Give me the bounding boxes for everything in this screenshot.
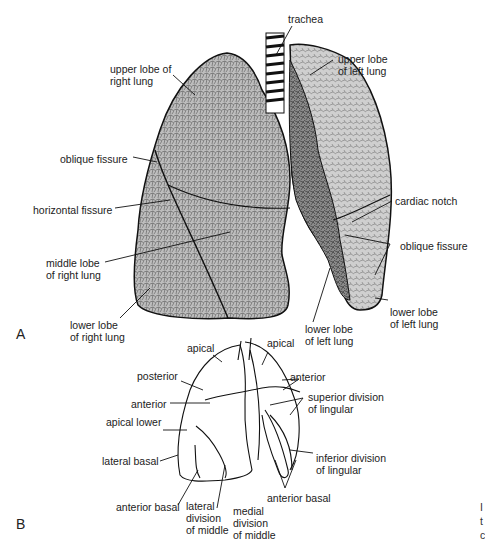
panel-letter-b: B [16, 516, 25, 532]
label-apical-left: apical [267, 337, 294, 349]
label-trachea: trachea [288, 13, 323, 25]
label-lower-lobe-right-line1: lower lobe [70, 319, 118, 331]
label-lateral-basal: lateral basal [102, 455, 159, 467]
caption-fragment-1: I [480, 500, 483, 514]
label-apical-lower: apical lower [106, 416, 161, 428]
label-superior-lingular-line2: of lingular [308, 403, 354, 415]
label-inferior-lingular-line1: inferior division [316, 452, 386, 464]
label-middle-lobe-right-line2: of right lung [46, 269, 101, 281]
label-horizontal-fissure: horizontal fissure [33, 204, 112, 216]
label-medial-division-line3: of middle [233, 529, 276, 541]
label-lower-lobe-left-b-line1: lower lobe [390, 306, 438, 318]
label-upper-lobe-left-line2: of left lung [338, 65, 386, 77]
label-lower-lobe-right-line2: of right lung [70, 331, 125, 343]
panel-letter-a: A [16, 326, 25, 342]
label-apical-right: apical [187, 342, 214, 354]
label-lower-lobe-left-a-line2: of left lung [305, 335, 353, 347]
label-inferior-lingular-line2: of lingular [316, 464, 362, 476]
caption-fragment-3: c [480, 528, 485, 542]
label-posterior: posterior [137, 370, 178, 382]
label-oblique-fissure-left: oblique fissure [400, 240, 468, 252]
label-cardiac-notch: cardiac notch [395, 195, 457, 207]
label-lateral-division-line1: lateral [186, 500, 215, 512]
label-lower-lobe-left-b-line2: of left lung [390, 318, 438, 330]
label-medial-division-line1: medial [233, 505, 264, 517]
label-anterior-basal-right: anterior basal [116, 501, 180, 513]
label-upper-lobe-right-line1: upper lobe of [110, 63, 171, 75]
label-anterior-right: anterior [131, 398, 167, 410]
caption-fragment-2: t [480, 514, 483, 528]
label-upper-lobe-right-line2: right lung [110, 75, 153, 87]
label-middle-lobe-right-line1: middle lobe [46, 257, 100, 269]
label-lateral-division-line3: of middle [186, 524, 229, 536]
label-upper-lobe-left-line1: upper lobe [338, 53, 388, 65]
label-lateral-division-line2: division [186, 512, 221, 524]
segments-outline [178, 338, 300, 481]
label-oblique-fissure-right: oblique fissure [60, 153, 128, 165]
left-lung [289, 44, 391, 310]
label-anterior-basal-left: anterior basal [267, 492, 331, 504]
label-medial-division-line2: division [233, 517, 268, 529]
label-lower-lobe-left-a-line1: lower lobe [305, 323, 353, 335]
label-superior-lingular-line1: superior division [308, 391, 384, 403]
label-anterior-left: anterior [290, 371, 326, 383]
